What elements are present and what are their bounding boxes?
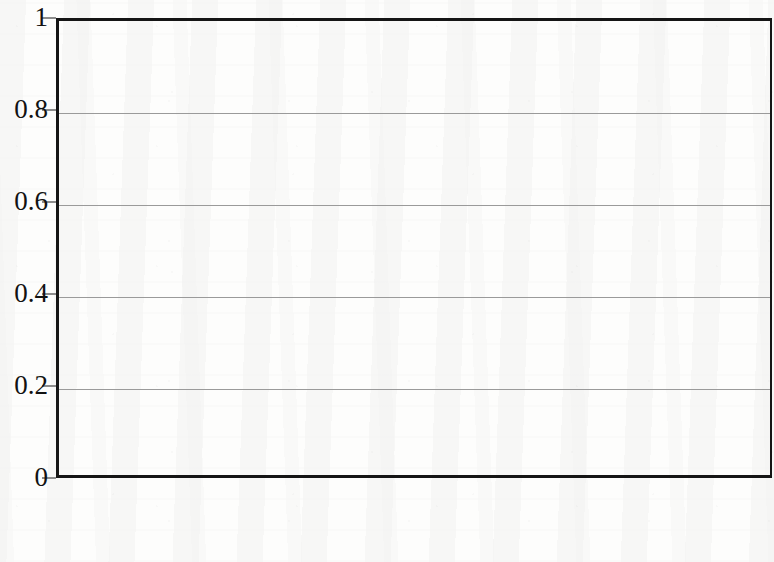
y-tick-label: 0 [0,464,48,491]
bar-chart-figure: 10.80.60.40.20 [0,0,774,562]
y-tick-label: 0.8 [0,96,48,123]
plot-area [56,18,772,478]
y-tick-label: 0.6 [0,188,48,215]
y-tick-label: 1 [0,4,48,31]
gridline [59,113,770,114]
gridline [59,297,770,298]
gridline [59,205,770,206]
y-tick-label: 0.4 [0,280,48,307]
y-tick-label: 0.2 [0,372,48,399]
gridline [59,389,770,390]
